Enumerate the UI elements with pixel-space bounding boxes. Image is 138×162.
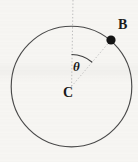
geometry-figure: B C θ <box>0 0 138 162</box>
point-b-dot <box>106 35 115 44</box>
point-b-label: B <box>118 18 127 32</box>
center-c-label: C <box>63 86 73 100</box>
angle-theta-label: θ <box>73 60 80 73</box>
